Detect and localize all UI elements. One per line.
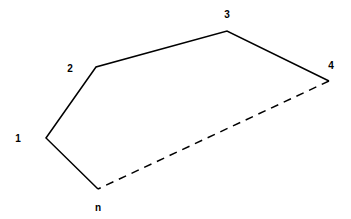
vertex-label-1: 1 [15,133,21,144]
vertex-label-4: 4 [328,60,334,71]
vertex-label-2: 2 [67,63,73,74]
vertex-label-3: 3 [224,9,230,20]
dashed-edge-4-n [98,81,329,189]
polygon-diagram: 1 2 3 4 n [0,0,351,219]
vertex-label-n: n [95,202,101,213]
solid-edges [46,31,329,189]
